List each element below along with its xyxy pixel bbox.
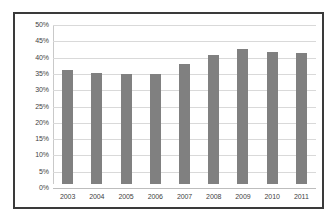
x-axis-labels: 2003 2004 2005 2006 2007 2008 2009 2010 …: [53, 187, 316, 201]
bar-slot: [82, 25, 111, 184]
x-tick-slot: 2006: [141, 185, 170, 203]
y-tick-label-20: 20%: [19, 119, 49, 127]
bar-2009[interactable]: [237, 49, 248, 184]
x-tick-label-2011: 2011: [294, 193, 309, 200]
chart-plot-wrapper: 50% 45% 40% 35% 30% 25% 20% 15% 10% 5% 0…: [15, 14, 322, 207]
bar-slot: [170, 25, 199, 184]
bar-slot: [258, 25, 287, 184]
bar-2011[interactable]: [296, 53, 307, 184]
x-tick-slot: 2009: [228, 185, 257, 203]
bar-slot: [141, 25, 170, 184]
x-tick-label-2006: 2006: [148, 193, 163, 200]
x-tick-label-2010: 2010: [265, 193, 280, 200]
x-tick-label-2004: 2004: [89, 193, 104, 200]
x-tick-label-2008: 2008: [206, 193, 221, 200]
bar-2005[interactable]: [121, 74, 132, 184]
bar-2008[interactable]: [208, 55, 219, 184]
y-tick-label-5: 5%: [19, 168, 49, 176]
x-tick-label-2009: 2009: [235, 193, 250, 200]
x-tick-slot: 2004: [82, 185, 111, 203]
y-tick-label-35: 35%: [19, 70, 49, 78]
bar-2006[interactable]: [150, 74, 161, 184]
bar-2007[interactable]: [179, 64, 190, 184]
bar-2010[interactable]: [267, 52, 278, 184]
y-tick-label-50: 50%: [19, 21, 49, 29]
chart-frame: 50% 45% 40% 35% 30% 25% 20% 15% 10% 5% 0…: [13, 12, 324, 209]
y-tick-label-25: 25%: [19, 103, 49, 111]
bar-slot: [111, 25, 140, 184]
x-tick-slot: 2010: [258, 185, 287, 203]
x-tick-label-2007: 2007: [177, 193, 192, 200]
x-tick-slot: 2011: [287, 185, 316, 203]
x-tick-slot: 2003: [53, 185, 82, 203]
bar-slot: [53, 25, 82, 184]
bar-2003[interactable]: [62, 70, 73, 184]
y-tick-label-45: 45%: [19, 37, 49, 45]
x-tick-slot: 2005: [111, 185, 140, 203]
bar-slot: [228, 25, 257, 184]
bar-2004[interactable]: [91, 73, 102, 184]
bar-slot: [199, 25, 228, 184]
x-tick-label-2003: 2003: [60, 193, 75, 200]
x-tick-slot: 2007: [170, 185, 199, 203]
y-tick-label-30: 30%: [19, 86, 49, 94]
x-tick-label-2005: 2005: [118, 193, 133, 200]
y-tick-label-10: 10%: [19, 151, 49, 159]
bar-slot: [287, 25, 316, 184]
y-tick-label-15: 15%: [19, 135, 49, 143]
y-tick-label-40: 40%: [19, 54, 49, 62]
bar-series: [53, 25, 316, 184]
plot-area: [53, 25, 316, 184]
y-tick-label-0: 0%: [19, 184, 49, 192]
x-tick-slot: 2008: [199, 185, 228, 203]
